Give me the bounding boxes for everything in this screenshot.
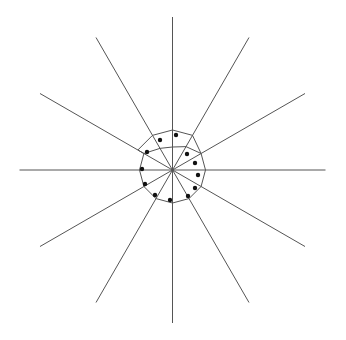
ray-line [173, 170, 250, 303]
dot-marker [193, 186, 197, 190]
radial-diagram [0, 0, 346, 340]
ray-line [96, 37, 173, 170]
dot-marker [185, 152, 189, 156]
dot-marker [168, 198, 172, 202]
ray-line [173, 37, 250, 170]
dot-marker [153, 193, 157, 197]
rays-group [20, 17, 326, 323]
dot-marker [143, 182, 147, 186]
ray-line [40, 170, 173, 247]
ray-line [173, 170, 306, 247]
dot-marker [158, 138, 162, 142]
dot-marker [140, 167, 144, 171]
dot-marker [174, 133, 178, 137]
dot-marker [196, 173, 200, 177]
ray-line [173, 94, 306, 171]
polygon-ring [138, 130, 206, 203]
ray-line [96, 170, 173, 303]
dot-marker [145, 150, 149, 154]
dot-marker [186, 194, 190, 198]
diagram-canvas [0, 0, 346, 340]
outer-polygon [138, 130, 206, 203]
ray-line [40, 94, 173, 171]
dot-marker [193, 161, 197, 165]
